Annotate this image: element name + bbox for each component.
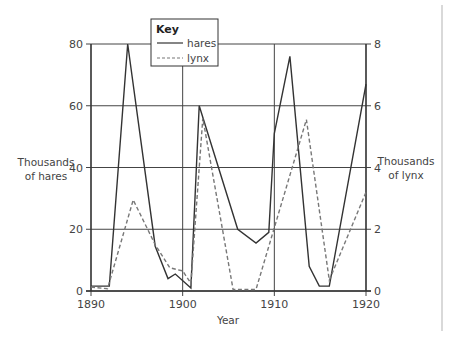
y-tick-left: 0 (76, 285, 83, 298)
page-divider (441, 5, 443, 331)
y-tick-left: 20 (69, 223, 83, 236)
legend-label-lynx: lynx (187, 52, 209, 64)
line-chart: 020406080024681890190019101920 Thousands… (0, 0, 449, 337)
y-tick-right: 2 (374, 223, 381, 236)
right-axis-title: Thousands of lynx (377, 155, 435, 181)
legend-label-hares: hares (187, 37, 216, 49)
right-axis-title-line2: of lynx (388, 169, 423, 181)
y-tick-right: 6 (374, 100, 381, 113)
y-tick-left: 60 (69, 100, 83, 113)
left-axis-title-line2: of hares (25, 170, 68, 182)
y-tick-right: 8 (374, 38, 381, 51)
left-axis-title: Thousands of hares (17, 156, 75, 182)
legend-title: Key (156, 23, 179, 36)
y-tick-right: 0 (374, 285, 381, 298)
data-series (91, 44, 366, 290)
x-axis-title: Year (216, 314, 240, 326)
left-axis-title-line1: Thousands (17, 156, 75, 168)
y-tick-left: 80 (69, 38, 83, 51)
right-axis-title-line1: Thousands (377, 155, 435, 167)
legend: Key hares lynx (151, 19, 218, 66)
x-tick: 1890 (77, 298, 105, 311)
series-lynx (91, 118, 366, 289)
x-tick: 1920 (352, 298, 380, 311)
x-tick: 1910 (260, 298, 288, 311)
x-tick: 1900 (169, 298, 197, 311)
grid (86, 44, 371, 296)
tick-labels: 020406080024681890190019101920 (69, 38, 381, 311)
